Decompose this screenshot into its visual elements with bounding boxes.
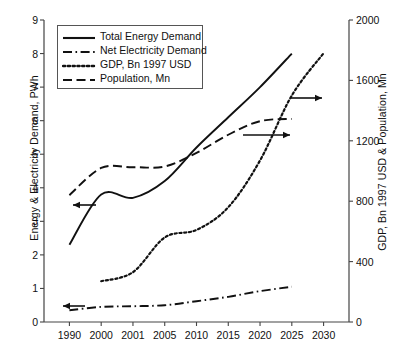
arrow-population-to-right-axis bbox=[243, 132, 290, 138]
legend-line-swatch bbox=[62, 30, 96, 42]
series-line-net-electricity-demand bbox=[69, 287, 291, 310]
data-series-lines bbox=[69, 53, 323, 310]
legend-line-swatch bbox=[62, 58, 96, 70]
legend-item: Net Electricity Demand bbox=[62, 43, 198, 57]
legend-line-swatch bbox=[62, 72, 96, 84]
legend-item-label: Population, Mn bbox=[100, 72, 170, 84]
series-line-population-mn bbox=[69, 119, 291, 195]
arrow-gdp-to-right-axis bbox=[290, 95, 322, 101]
legend-line-swatch bbox=[62, 44, 96, 56]
legend-item: Population, Mn bbox=[62, 71, 198, 85]
legend-item-label: GDP, Bn 1997 USD bbox=[100, 58, 191, 70]
legend-item: GDP, Bn 1997 USD bbox=[62, 57, 198, 71]
arrow-total-energy-to-left-axis bbox=[73, 202, 96, 208]
axis-pointer-arrows bbox=[63, 95, 322, 309]
legend-item-label: Total Energy Demand bbox=[100, 30, 201, 42]
legend-item-label: Net Electricity Demand bbox=[100, 44, 207, 56]
chart-legend: Total Energy DemandNet Electricity Deman… bbox=[57, 25, 203, 89]
legend-item: Total Energy Demand bbox=[62, 29, 198, 43]
chart-figure: Energy & Electricity Demand, PWh GDP, Bn… bbox=[0, 0, 402, 356]
